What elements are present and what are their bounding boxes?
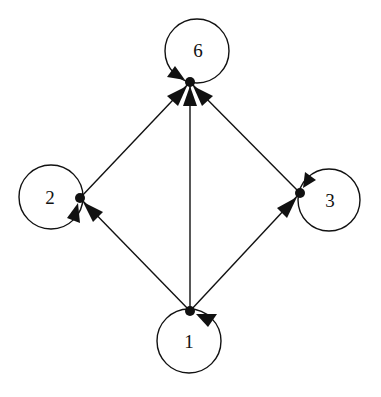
anchor-node-3 — [295, 188, 305, 198]
anchor-node-1 — [185, 306, 195, 316]
node-label-1: 1 — [184, 331, 194, 352]
arrowheads — [67, 66, 316, 327]
graph-canvas: 6 2 3 1 — [0, 0, 381, 397]
arrowhead-loop-3-icon — [303, 172, 316, 188]
node-label-2: 2 — [45, 187, 55, 208]
anchor-node-2 — [75, 193, 85, 203]
node-label-3: 3 — [325, 190, 335, 211]
node-label-6: 6 — [193, 40, 203, 61]
edges — [80, 82, 300, 311]
arrowhead-loop-2-icon — [67, 203, 80, 223]
anchor-node-6 — [185, 77, 195, 87]
